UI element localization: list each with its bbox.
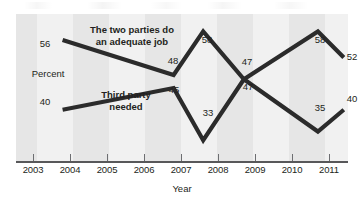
x-axis-tick (107, 154, 108, 161)
x-tick-label-2003: 2003 (23, 164, 44, 175)
data-label-40b: 40 (347, 93, 357, 104)
series-label-third-party-line2: needed (109, 101, 142, 112)
x-axis-tick (218, 154, 219, 161)
x-axis-tick (181, 154, 182, 161)
data-label-52: 52 (347, 51, 357, 62)
chart-figure: 2003 2004 2005 2006 2007 2008 2009 2010 … (0, 0, 364, 210)
data-label-58b: 58 (315, 34, 325, 45)
data-label-33: 33 (203, 107, 213, 118)
x-tick-label-2006: 2006 (134, 164, 155, 175)
data-label-48: 48 (168, 55, 178, 66)
y-axis-label: Percent (32, 68, 65, 79)
data-label-40: 40 (40, 96, 50, 107)
data-label-58a: 58 (202, 34, 212, 45)
x-tick-label-2007: 2007 (171, 164, 192, 175)
series-label-two-parties: The two parties do an adequate job (90, 24, 174, 47)
x-axis-line (16, 161, 348, 163)
plot-area (16, 14, 348, 162)
x-tick-label-2008: 2008 (208, 164, 229, 175)
x-axis-tick (144, 154, 145, 161)
x-axis-title: Year (0, 183, 364, 194)
data-label-47a: 47 (242, 56, 252, 67)
data-label-56: 56 (40, 38, 50, 49)
x-tick-label-2009: 2009 (245, 164, 266, 175)
series-label-third-party: Third party needed (101, 89, 151, 112)
x-axis-tick (70, 154, 71, 161)
series-label-two-parties-line1: The two parties do (90, 24, 174, 35)
x-tick-label-2004: 2004 (60, 164, 81, 175)
x-axis-tick (329, 154, 330, 161)
data-label-45: 45 (169, 84, 179, 95)
x-tick-label-2010: 2010 (282, 164, 303, 175)
series-label-two-parties-line2: an adequate job (96, 36, 168, 47)
x-axis-tick (33, 154, 34, 161)
data-label-47b: 47 (243, 81, 253, 92)
x-axis-tick (255, 154, 256, 161)
series-lines (16, 14, 348, 162)
series-label-third-party-line1: Third party (101, 89, 151, 100)
data-label-35: 35 (315, 102, 325, 113)
x-tick-label-2011: 2011 (319, 164, 339, 175)
x-tick-label-2005: 2005 (97, 164, 118, 175)
scan-artifact (24, 2, 340, 9)
x-axis-tick (292, 154, 293, 161)
